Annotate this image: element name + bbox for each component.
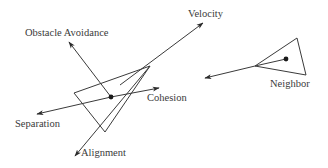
boid-center-dot (109, 95, 114, 100)
velocity-arrow (120, 23, 203, 85)
neighbor-arrow (205, 66, 255, 78)
obstacle-avoidance-label: Obstacle Avoidance (25, 28, 108, 39)
neighbor-label: Neighbor (270, 79, 310, 90)
neighbor-center-dot (284, 57, 289, 62)
neighbor-triangle (255, 38, 306, 75)
alignment-label: Alignment (81, 148, 126, 159)
separation-label: Separation (15, 119, 60, 130)
cohesion-label: Cohesion (147, 93, 187, 104)
velocity-label: Velocity (188, 9, 223, 20)
separation-arrow (37, 97, 111, 114)
obstacle-avoidance-arrow (69, 42, 111, 97)
